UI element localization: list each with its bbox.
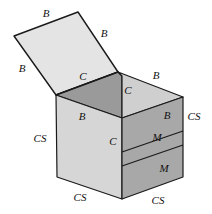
label-cs-right-vertical-edge: CS: [188, 111, 201, 122]
label-b-right-face-upper: B: [164, 110, 171, 121]
label-c-hinge-edge: C: [124, 85, 131, 96]
label-b-top-right-edge: B: [153, 70, 160, 81]
label-cs-bottom-left-edge: CS: [74, 192, 87, 203]
label-b-lid-left-edge: B: [19, 63, 26, 74]
label-c-front-vertical-edge: C: [109, 136, 116, 147]
label-b-lid-right-edge: B: [101, 28, 108, 39]
label-cs-left-vertical-edge: CS: [34, 133, 47, 144]
label-cs-bottom-right-edge: CS: [152, 195, 165, 206]
label-m-band-upper: M: [152, 132, 161, 143]
label-c-top-left-flap: C: [79, 71, 86, 82]
box-diagram-figure: BBBCCBBBCSCSCMMCSCS: [0, 0, 212, 214]
label-m-band-lower: M: [159, 163, 168, 174]
label-b-lid-top-edge: B: [43, 8, 50, 19]
label-b-flap-front-edge: B: [79, 111, 86, 122]
